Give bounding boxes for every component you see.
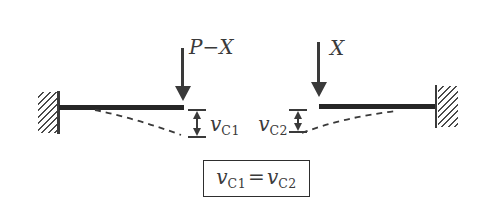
equation-lhs-subscript: C1 [228,176,247,191]
cantilever-superposition-diagram: P−X vC1 vC2 X vC1=vC2 [0,0,482,206]
right-support-hatch-icon [438,86,458,127]
left-deflection-curve [58,107,188,139]
right-deflection-curve [296,107,440,137]
left-deflection-label: vC1 [210,114,240,138]
left-load-arrow-shaft [181,48,184,88]
right-beam [319,104,436,109]
right-deflection-label-subscript: C2 [269,123,288,138]
left-load-label: P−X [189,37,233,57]
equation-rhs-subscript: C2 [278,176,297,191]
equation-lhs-base: v [216,165,227,189]
equation-rhs-base: v [267,165,278,189]
left-deflection-label-subscript: C1 [221,123,240,138]
right-support-face [435,85,438,128]
equation-text: vC1=vC2 [216,167,296,191]
left-measure-bottom-tick [188,136,206,138]
left-deflection-label-base: v [210,112,221,136]
right-load-arrow-shaft [317,42,320,84]
equation-equals-sign: = [248,165,265,189]
right-load-label: X [330,38,344,58]
right-deflection-label: vC2 [256,114,288,138]
left-support-hatch-icon [38,92,58,133]
left-measure-arrowhead-up-icon [193,111,201,119]
left-load-arrowhead-down-icon [175,86,191,101]
right-deflection-label-base: v [258,112,269,136]
right-load-arrowhead-down-icon [311,82,327,97]
left-measure-arrowhead-down-icon [193,128,201,136]
equation-box: vC1=vC2 [203,160,310,197]
